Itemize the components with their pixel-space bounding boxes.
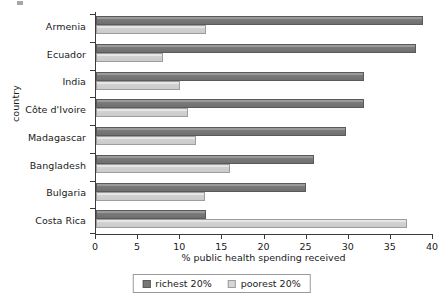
bar-richest[interactable] bbox=[96, 127, 346, 136]
y-axis-title: country bbox=[10, 69, 21, 139]
x-axis-tick bbox=[390, 234, 391, 239]
bar-richest[interactable] bbox=[96, 210, 206, 219]
x-axis-tick-label: 25 bbox=[300, 241, 312, 252]
bar-group: India bbox=[95, 68, 432, 96]
x-axis-tick-label: 35 bbox=[384, 241, 396, 252]
x-axis-tick bbox=[264, 234, 265, 239]
bar-group: Bangladesh bbox=[95, 151, 432, 179]
bar-poorest[interactable] bbox=[96, 136, 196, 145]
category-label: Armenia bbox=[46, 20, 86, 31]
category-label: Ecuador bbox=[47, 48, 86, 59]
plot-area: ArmeniaEcuadorIndiaCôte d'IvoireMadagasc… bbox=[95, 12, 432, 234]
x-axis-tick bbox=[432, 234, 433, 239]
legend-label-poorest: poorest 20% bbox=[241, 278, 301, 289]
category-label: Madagascar bbox=[28, 131, 86, 142]
bar-richest[interactable] bbox=[96, 16, 423, 25]
category-label: Costa Rica bbox=[35, 215, 86, 226]
bar-richest[interactable] bbox=[96, 155, 314, 164]
bar-richest[interactable] bbox=[96, 44, 416, 53]
category-label: Bulgaria bbox=[46, 187, 86, 198]
chart-legend: richest 20% poorest 20% bbox=[132, 274, 310, 293]
bar-group: Costa Rica bbox=[95, 206, 432, 234]
x-axis-tick bbox=[306, 234, 307, 239]
legend-swatch-richest-icon bbox=[142, 280, 150, 288]
y-axis-tick bbox=[90, 125, 95, 126]
x-axis-tick-label: 15 bbox=[215, 241, 227, 252]
category-label: India bbox=[62, 76, 86, 87]
x-axis-tick-label: 5 bbox=[134, 241, 140, 252]
bar-group: Madagascar bbox=[95, 123, 432, 151]
bar-richest[interactable] bbox=[96, 72, 364, 81]
scan-artifact-mark bbox=[17, 1, 23, 5]
x-axis-tick-label: 40 bbox=[426, 241, 438, 252]
legend-item-poorest[interactable]: poorest 20% bbox=[228, 278, 301, 289]
y-axis-tick bbox=[90, 208, 95, 209]
bar-group: Armenia bbox=[95, 12, 432, 40]
bar-poorest[interactable] bbox=[96, 219, 407, 228]
legend-item-richest[interactable]: richest 20% bbox=[142, 278, 211, 289]
x-axis-tick-label: 20 bbox=[257, 241, 269, 252]
category-label: Côte d'Ivoire bbox=[25, 104, 86, 115]
bar-group: Bulgaria bbox=[95, 179, 432, 207]
bar-chart: country ArmeniaEcuadorIndiaCôte d'Ivoire… bbox=[0, 0, 443, 303]
x-axis-tick bbox=[221, 234, 222, 239]
y-axis-tick bbox=[90, 97, 95, 98]
x-axis-tick-label: 0 bbox=[92, 241, 98, 252]
bar-poorest[interactable] bbox=[96, 25, 206, 34]
x-axis-tick bbox=[95, 234, 96, 239]
legend-label-richest: richest 20% bbox=[155, 278, 211, 289]
bar-poorest[interactable] bbox=[96, 164, 230, 173]
bar-richest[interactable] bbox=[96, 183, 306, 192]
bar-group: Ecuador bbox=[95, 40, 432, 68]
y-axis-tick bbox=[90, 14, 95, 15]
y-axis-tick bbox=[90, 181, 95, 182]
x-axis-tick bbox=[179, 234, 180, 239]
x-axis-tick bbox=[348, 234, 349, 239]
category-label: Bangladesh bbox=[30, 159, 86, 170]
bar-poorest[interactable] bbox=[96, 192, 205, 201]
bar-richest[interactable] bbox=[96, 99, 364, 108]
legend-swatch-poorest-icon bbox=[228, 280, 236, 288]
x-axis-tick bbox=[137, 234, 138, 239]
y-axis-tick bbox=[90, 70, 95, 71]
x-axis-tick-label: 30 bbox=[342, 241, 354, 252]
bar-poorest[interactable] bbox=[96, 108, 188, 117]
x-axis-tick-label: 10 bbox=[173, 241, 185, 252]
bar-group: Côte d'Ivoire bbox=[95, 95, 432, 123]
y-axis-tick bbox=[90, 153, 95, 154]
y-axis-tick bbox=[90, 42, 95, 43]
bar-poorest[interactable] bbox=[96, 81, 180, 90]
x-axis-title: % public health spending received bbox=[95, 252, 432, 263]
bar-poorest[interactable] bbox=[96, 53, 163, 62]
